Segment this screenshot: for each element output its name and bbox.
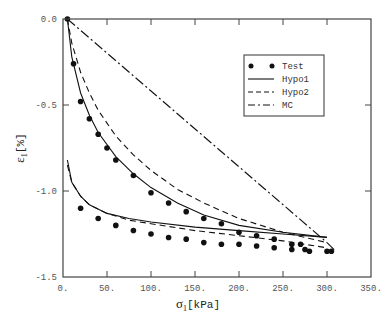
data-point <box>113 223 119 229</box>
data-point <box>166 200 172 206</box>
series-mc <box>67 19 335 251</box>
series-layer <box>65 16 336 254</box>
legend-label: Hypo2 <box>282 88 309 98</box>
data-point <box>236 242 242 248</box>
data-point <box>201 216 207 222</box>
series-line-loading <box>67 19 327 243</box>
data-point <box>289 247 295 253</box>
legend-label: MC <box>282 101 293 111</box>
data-point <box>219 221 225 227</box>
y-tick-label: -1.5 <box>35 273 57 283</box>
x-tick-label: 100. <box>140 284 162 294</box>
legend-marker-icon <box>249 64 254 69</box>
data-point <box>183 236 189 242</box>
data-point <box>201 240 207 246</box>
data-point <box>131 228 137 234</box>
y-tick-label: -1.0 <box>35 187 57 197</box>
data-point <box>148 190 154 196</box>
data-point <box>78 205 84 211</box>
series-hypo1 <box>67 19 327 237</box>
x-axis-label: σ1[kPa] <box>176 296 220 313</box>
data-point <box>95 216 101 222</box>
legend-label: Test <box>282 62 304 72</box>
data-point <box>78 99 84 105</box>
data-point <box>183 209 189 215</box>
series-hypo2 <box>67 19 327 248</box>
series-line-unloading <box>67 160 327 237</box>
x-axis-unit: [kPa] <box>187 299 220 311</box>
y-axis-label: ε1[%] <box>12 133 29 162</box>
x-tick-label: 200. <box>228 284 250 294</box>
series-line-loading <box>67 19 327 237</box>
data-point <box>271 245 277 251</box>
y-tick-label: 0.0 <box>41 15 57 25</box>
x-tick-label: 150. <box>184 284 206 294</box>
x-tick-label: 300. <box>316 284 338 294</box>
chart: 0.50.100.150.200.250.300.350.0.0-0.5-1.0… <box>0 0 392 325</box>
x-axis-symbol: σ <box>176 296 183 311</box>
legend-label: Hypo1 <box>282 75 309 85</box>
x-tick-label: 250. <box>272 284 294 294</box>
x-tick-label: 0. <box>58 284 69 294</box>
legend-marker-icon <box>270 64 275 69</box>
data-point <box>219 242 225 248</box>
series-line-unloading <box>67 165 327 248</box>
data-point <box>254 243 260 249</box>
y-axis-unit: [%] <box>15 133 27 153</box>
legend: TestHypo1Hypo2MC <box>244 55 324 116</box>
data-point <box>166 235 172 241</box>
x-tick-label: 350. <box>360 284 382 294</box>
data-point <box>148 231 154 237</box>
data-point <box>307 248 313 254</box>
y-tick-label: -0.5 <box>35 101 57 111</box>
x-tick-label: 50. <box>99 284 115 294</box>
